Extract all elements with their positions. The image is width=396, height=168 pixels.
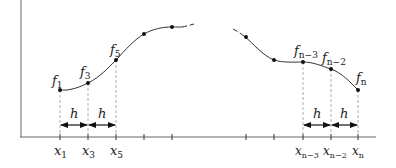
xn-3-label: xn−3 bbox=[295, 144, 319, 160]
x3-label: x3 bbox=[82, 143, 95, 160]
f3-label: f3 bbox=[79, 64, 91, 81]
function-curve-left-dashed bbox=[182, 24, 194, 27]
function-curve-left bbox=[60, 27, 182, 90]
f1-label: f1 bbox=[51, 73, 63, 90]
h-label: h bbox=[98, 106, 106, 121]
h-label: h bbox=[313, 106, 321, 121]
f5-label: f5 bbox=[109, 42, 121, 59]
function-curve-right-dashed bbox=[233, 29, 244, 36]
integration-diagram: h h h h f1 f3 f5 fn−3 fn−2 fn x1 x3 x5 x… bbox=[0, 0, 396, 168]
h-label: h bbox=[340, 106, 348, 121]
x5-label: x5 bbox=[110, 143, 123, 160]
h-label: h bbox=[70, 106, 78, 121]
fn-3-label: fn−3 bbox=[293, 43, 318, 60]
xn-label: xn bbox=[352, 144, 364, 160]
x1-label: x1 bbox=[54, 143, 67, 160]
fn-label: fn bbox=[355, 70, 367, 87]
xn-2-label: xn−2 bbox=[323, 144, 347, 160]
fn-2-label: fn−2 bbox=[321, 50, 346, 67]
